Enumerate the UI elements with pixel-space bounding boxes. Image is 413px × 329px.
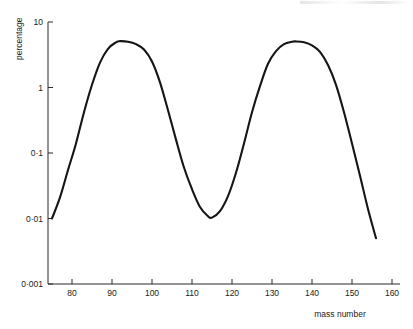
- yield-curve: [52, 41, 376, 238]
- y-tick-label: 0·1: [31, 148, 44, 158]
- y-axis-label: percentage: [14, 17, 24, 60]
- y-tick-label: 0·01: [26, 214, 43, 224]
- x-tick-label: 120: [225, 288, 239, 298]
- x-axis-ticks: 8090100110120130140150160: [67, 279, 399, 298]
- x-tick-label: 140: [305, 288, 319, 298]
- x-tick-label: 100: [145, 288, 159, 298]
- y-tick-label: 10: [34, 17, 44, 27]
- x-tick-label: 160: [385, 288, 399, 298]
- fission-yield-chart: 1010·10·010·001 809010011012013014015016…: [0, 0, 413, 329]
- y-tick-label: 0·001: [21, 279, 43, 289]
- x-tick-label: 130: [265, 288, 279, 298]
- y-tick-label: 1: [38, 83, 43, 93]
- x-tick-label: 150: [345, 288, 359, 298]
- chart-canvas: 1010·10·010·001 809010011012013014015016…: [0, 0, 413, 329]
- x-axis-label: mass number: [314, 309, 366, 319]
- x-tick-label: 110: [185, 288, 199, 298]
- x-tick-label: 90: [107, 288, 117, 298]
- x-tick-label: 80: [67, 288, 77, 298]
